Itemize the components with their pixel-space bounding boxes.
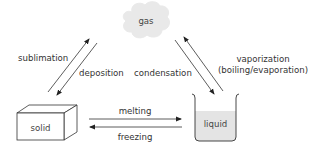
liquid-label: liquid	[204, 119, 228, 129]
liquid-beaker: liquid	[192, 94, 239, 141]
deposition-label: deposition	[79, 68, 124, 78]
vaporization-label: vaporization	[236, 54, 289, 64]
vaporization-arrow	[184, 37, 223, 91]
melting-label: melting	[119, 106, 152, 116]
gas-label: gas	[138, 16, 154, 26]
vaporization-sublabel: (boiling/evaporation)	[218, 65, 308, 75]
condensation-arrow	[175, 40, 214, 94]
sublimation-arrow	[48, 39, 89, 92]
solid-block: solid	[17, 105, 77, 140]
solid-label: solid	[31, 123, 51, 133]
phase-diagram: gas sublimation deposition condensation …	[0, 0, 316, 153]
condensation-label: condensation	[134, 68, 192, 78]
gas-cloud: gas	[123, 2, 169, 38]
sublimation-label: sublimation	[18, 53, 68, 63]
freezing-label: freezing	[118, 132, 153, 142]
